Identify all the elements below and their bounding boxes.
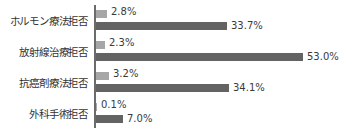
category-group: 抗癌剤療法拒否 3.2% 34.1% xyxy=(0,68,349,98)
bar-light xyxy=(96,41,105,49)
category-label: 外科手術拒否 xyxy=(0,105,88,123)
category-group: 外科手術拒否 0.1% 7.0% xyxy=(0,99,349,129)
bar-value-light: 0.1% xyxy=(97,101,126,109)
bar-value-dark: 34.1% xyxy=(229,84,265,92)
bar-chart: ホルモン療法拒否 2.8% 33.7% 放射線治療拒否 2.3% 53.0% 抗… xyxy=(0,0,349,135)
bar-row-dark: 34.1% xyxy=(96,84,265,92)
bar-value-dark: 33.7% xyxy=(227,22,263,30)
bar-row-dark: 53.0% xyxy=(96,53,339,61)
bar-row-dark: 33.7% xyxy=(96,22,263,30)
bar-dark xyxy=(96,22,227,30)
bar-value-light: 3.2% xyxy=(109,70,138,78)
category-group: 放射線治療拒否 2.3% 53.0% xyxy=(0,37,349,67)
category-label: 抗癌剤療法拒否 xyxy=(0,74,88,92)
bar-value-light: 2.3% xyxy=(105,39,134,47)
bar-row-light: 2.8% xyxy=(96,10,136,18)
bar-value-light: 2.8% xyxy=(107,8,136,16)
bar-dark xyxy=(96,84,229,92)
category-label: 放射線治療拒否 xyxy=(0,43,88,61)
bar-light xyxy=(96,10,107,18)
bar-dark xyxy=(96,53,303,61)
bar-row-light: 0.1% xyxy=(96,103,126,111)
bar-row-light: 2.3% xyxy=(96,41,134,49)
plot-area: ホルモン療法拒否 2.8% 33.7% 放射線治療拒否 2.3% 53.0% 抗… xyxy=(0,0,349,135)
bar-row-light: 3.2% xyxy=(96,72,138,80)
bar-value-dark: 7.0% xyxy=(123,115,152,123)
bar-light xyxy=(96,72,109,80)
bar-row-dark: 7.0% xyxy=(96,115,152,123)
category-label: ホルモン療法拒否 xyxy=(0,12,88,30)
category-group: ホルモン療法拒否 2.8% 33.7% xyxy=(0,6,349,36)
bar-dark xyxy=(96,115,123,123)
bar-value-dark: 53.0% xyxy=(303,53,339,61)
